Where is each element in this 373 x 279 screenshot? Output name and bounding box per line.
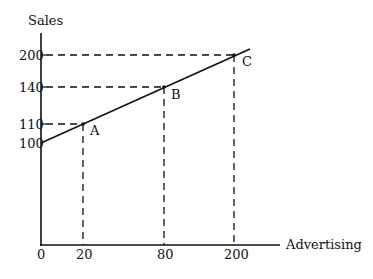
y-tick-100: 100 xyxy=(19,137,44,150)
point-a xyxy=(81,122,85,126)
guide-lines xyxy=(46,55,234,245)
x-tick-80: 80 xyxy=(157,248,174,261)
y-tick-110: 110 xyxy=(19,118,44,131)
point-c-label: C xyxy=(242,55,252,68)
point-a-label: A xyxy=(90,124,99,137)
point-b xyxy=(162,85,166,89)
sales-line xyxy=(41,49,250,143)
y-axis-label: Sales xyxy=(28,14,63,27)
y-tick-140: 140 xyxy=(19,81,44,94)
x-tick-200: 200 xyxy=(224,248,249,261)
x-axis-label: Advertising xyxy=(286,238,362,251)
x-tick-0: 0 xyxy=(37,248,45,261)
y-tick-200: 200 xyxy=(19,49,44,62)
point-b-label: B xyxy=(171,88,181,101)
point-c xyxy=(232,53,236,57)
x-tick-20: 20 xyxy=(76,248,93,261)
